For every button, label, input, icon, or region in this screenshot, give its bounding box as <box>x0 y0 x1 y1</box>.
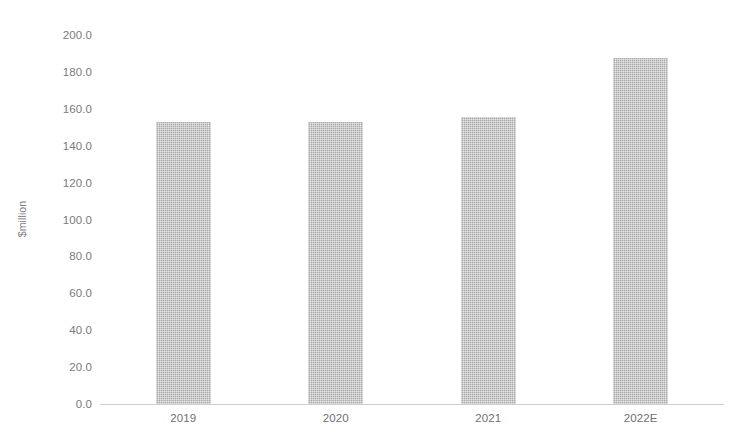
y-axis-tick-80: 80.0 <box>0 250 92 262</box>
bar-2019 <box>156 122 211 404</box>
x-axis-tick-2022E: 2022E <box>624 412 658 424</box>
y-axis-title: $million <box>16 201 28 237</box>
y-axis-tick-40: 40.0 <box>0 324 92 336</box>
y-axis-tick-160: 160.0 <box>0 103 92 115</box>
y-axis-tick-20: 20.0 <box>0 361 92 373</box>
x-axis-tick-2021: 2021 <box>475 412 501 424</box>
y-axis-tick-labels: 200.0180.0160.0140.0120.0100.080.060.040… <box>0 0 100 446</box>
bar-2022E <box>613 58 668 404</box>
figure-caption-strip: Exhibit 17: Trends in global pharmaceuti… <box>0 0 734 4</box>
plot-area <box>107 35 717 404</box>
x-axis-tick-2020: 2020 <box>323 412 349 424</box>
x-axis-tick-2019: 2019 <box>170 412 196 424</box>
bar-2021 <box>461 117 516 404</box>
bar-2020 <box>308 122 363 404</box>
y-axis-tick-0: 0.0 <box>0 398 92 410</box>
y-axis-tick-200: 200.0 <box>0 29 92 41</box>
y-axis-tick-120: 120.0 <box>0 177 92 189</box>
x-axis-line <box>100 404 724 405</box>
y-axis-tick-140: 140.0 <box>0 140 92 152</box>
chart-figure: Exhibit 17: Trends in global pharmaceuti… <box>0 0 734 446</box>
y-axis-tick-180: 180.0 <box>0 66 92 78</box>
y-axis-tick-100: 100.0 <box>0 214 92 226</box>
x-axis-tick-labels: 2019202020212022E <box>0 412 734 436</box>
y-axis-tick-60: 60.0 <box>0 287 92 299</box>
